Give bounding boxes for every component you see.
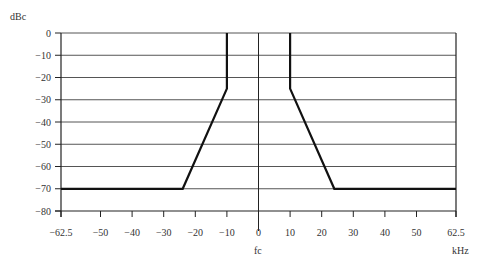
y-tick-label: −20 xyxy=(35,72,51,83)
x-tick-label: −62.5 xyxy=(49,227,72,238)
y-axis-ticks: 0−10−20−30−40−50−60−70−80 xyxy=(35,28,61,217)
x-tick-label: 20 xyxy=(317,227,327,238)
y-tick-label: −60 xyxy=(35,161,51,172)
x-tick-label: 30 xyxy=(348,227,358,238)
y-tick-label: −80 xyxy=(35,206,51,217)
center-frequency-label: fc xyxy=(254,245,262,256)
x-tick-label: −10 xyxy=(219,227,235,238)
axes xyxy=(55,33,456,231)
x-tick-label: −20 xyxy=(187,227,203,238)
x-tick-label: 40 xyxy=(380,227,390,238)
y-tick-label: −30 xyxy=(35,94,51,105)
x-tick-label: 62.5 xyxy=(447,227,465,238)
y-tick-label: −70 xyxy=(35,183,51,194)
y-tick-label: −50 xyxy=(35,139,51,150)
x-tick-label: 10 xyxy=(285,227,295,238)
spectrum-mask-chart: 0−10−20−30−40−50−60−70−80 −62.5−50−40−30… xyxy=(0,0,485,269)
y-tick-label: −10 xyxy=(35,50,51,61)
x-tick-label: 50 xyxy=(412,227,422,238)
y-axis-unit-label: dBc xyxy=(10,11,27,22)
x-tick-label: −30 xyxy=(156,227,172,238)
x-axis-unit-label: kHz xyxy=(452,245,469,256)
x-tick-label: −50 xyxy=(93,227,109,238)
y-tick-label: 0 xyxy=(46,28,51,39)
x-tick-label: −40 xyxy=(124,227,140,238)
x-axis-ticks: −62.5−50−40−30−20−100102030405062.5 xyxy=(49,211,464,238)
x-tick-label: 0 xyxy=(256,227,261,238)
y-tick-label: −40 xyxy=(35,117,51,128)
